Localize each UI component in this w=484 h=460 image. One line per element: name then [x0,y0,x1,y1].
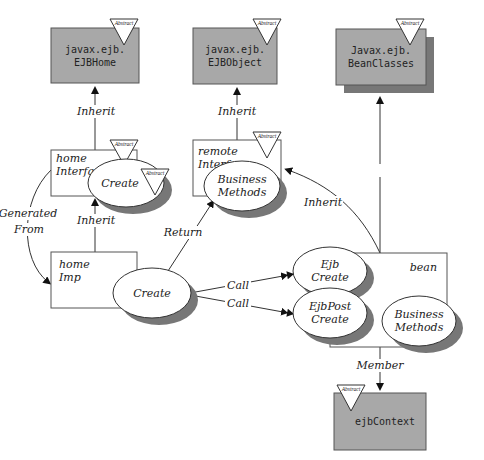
ejbpostcreate-line2: Create [311,313,349,326]
class-ejbcontext[interactable]: ejbContext Abstract [334,385,426,450]
svg-text:Abstract: Abstract [114,141,134,147]
home-interface-line1: home [56,152,87,165]
label-call-2: Call [227,297,249,310]
remote-interface-line1: remote [198,145,238,158]
home-interface-create-label: Create [101,177,139,190]
component-home-imp[interactable]: home Imp Create [51,252,198,325]
label-from: From [13,223,44,236]
class-ejbobject[interactable]: javax.ejb. EJBObject Abstract [193,19,281,84]
ejb-architecture-diagram: Inherit Inherit Inherit Inherit Generate… [0,0,484,460]
ejbcreate-line1: Ejb [320,258,339,271]
component-bean[interactable]: bean Ejb Create EjbPost Create Business … [293,247,463,353]
bean-label: bean [410,261,437,274]
label-return: Return [163,226,203,239]
inherit-remote-arrow [288,170,380,253]
bean-business-line2: Methods [394,321,444,334]
ejbcontext-label: ejbContext [355,416,415,427]
svg-text:Abstract: Abstract [145,170,165,176]
home-imp-create-label: Create [133,287,171,300]
bean-business-line1: Business [393,308,444,321]
method-create-ellipse[interactable]: Create Abstract [88,159,172,214]
label-inherit-remote: Inherit [303,196,343,209]
ejbcreate-line2: Create [311,271,349,284]
label-inherit-imp: Inherit [76,214,116,227]
label-member: Member [355,359,404,372]
home-imp-line2: Imp [58,271,81,284]
ejbhome-line2: EJBHome [74,57,116,68]
remote-business-line1: Business [216,173,267,186]
label-inherit-object: Inherit [217,105,257,118]
ejbobject-line2: EJBObject [208,57,262,68]
svg-text:Abstract: Abstract [400,20,420,26]
beanclasses-line1: Javax.ejb. [351,45,411,56]
ejbpostcreate-line1: EjbPost [308,300,352,313]
method-create-ellipse[interactable]: Create [113,268,198,325]
remote-business-line2: Methods [217,186,267,199]
label-inherit-home: Inherit [76,105,116,118]
class-beanclasses[interactable]: Javax.ejb. BeanClasses Abstract [336,19,434,93]
component-remote-interface[interactable]: remote Interface Abstract Business Metho… [193,132,287,218]
label-call-1: Call [227,279,249,292]
ejbhome-line1: javax.ejb. [65,44,125,55]
svg-text:Abstract: Abstract [257,133,277,139]
ejbobject-line1: javax.ejb. [205,44,265,55]
label-generated: Generated [0,207,57,220]
svg-text:Abstract: Abstract [341,386,361,392]
beanclasses-line2: BeanClasses [348,58,414,69]
class-ejbhome[interactable]: javax.ejb. EJBHome Abstract [51,19,139,83]
component-home-interface[interactable]: home Interface Abstract Create Abstract [51,140,172,214]
svg-text:Abstract: Abstract [257,20,277,26]
home-imp-line1: home [59,258,90,271]
svg-text:Abstract: Abstract [114,20,134,26]
